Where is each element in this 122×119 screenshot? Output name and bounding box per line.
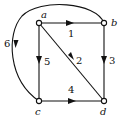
edge-6: 6 xyxy=(4,5,104,101)
edge-1: 1 xyxy=(39,20,104,39)
edge-label-4: 4 xyxy=(68,84,74,95)
graph-diagram: 6 1 2 3 4 5 xyxy=(0,0,122,119)
edge-label-2: 2 xyxy=(76,55,82,66)
arrow-icon xyxy=(68,98,76,104)
edge-3: 3 xyxy=(101,23,115,101)
edge-label-1: 1 xyxy=(68,28,74,39)
node-label-a: a xyxy=(41,9,47,20)
node-label-c: c xyxy=(35,106,41,117)
node-d: d xyxy=(100,98,107,117)
node-label-b: b xyxy=(111,17,117,28)
arrow-icon xyxy=(101,56,107,64)
edge-label-3: 3 xyxy=(109,55,115,66)
node-label-d: d xyxy=(100,106,106,117)
graph-svg: 6 1 2 3 4 5 xyxy=(0,0,122,119)
edge-label-6: 6 xyxy=(4,38,10,49)
edge-label-5: 5 xyxy=(44,56,50,67)
arrow-icon xyxy=(36,56,42,64)
arrow-icon xyxy=(14,40,19,48)
edge-4: 4 xyxy=(39,84,104,104)
arrow-icon xyxy=(66,20,74,26)
node-c: c xyxy=(35,98,42,117)
